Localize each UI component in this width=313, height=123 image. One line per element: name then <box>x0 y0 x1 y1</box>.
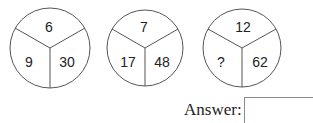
circle-2-left-value: 17 <box>120 54 136 70</box>
circle-3-left-value: ? <box>217 54 225 70</box>
circle-2-right-value: 48 <box>154 54 170 70</box>
circle-1-right-value: 30 <box>59 54 75 70</box>
answer-input[interactable] <box>244 97 313 123</box>
number-circles-puzzle: 6 9 30 7 17 48 12 ? 62 <box>0 0 313 100</box>
answer-label: Answer: <box>184 100 242 120</box>
circle-2-top-value: 7 <box>140 19 148 35</box>
circle-1-left-value: 9 <box>25 54 33 70</box>
circle-2: 7 17 48 <box>107 10 183 86</box>
circle-3-right-value: 62 <box>252 54 268 70</box>
circle-1-top-value: 6 <box>45 19 53 35</box>
circle-3: 12 ? 62 <box>203 9 281 87</box>
circle-3-top-value: 12 <box>235 19 251 35</box>
circle-1: 6 9 30 <box>10 8 90 88</box>
